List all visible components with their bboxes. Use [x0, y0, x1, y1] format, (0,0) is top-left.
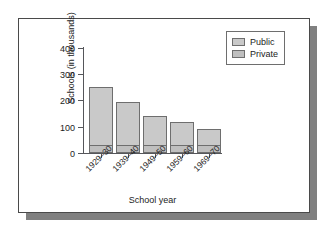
legend-item-public[interactable]: Public [232, 36, 278, 48]
y-tick-0: 0 [78, 153, 83, 154]
bar-group-1939-40[interactable] [116, 48, 140, 153]
bar-group-1969-70[interactable] [197, 48, 221, 153]
bar-group-1959-60[interactable] [170, 48, 194, 153]
y-tick-label-400: 400 [60, 44, 75, 53]
bar-group-1949-50[interactable] [143, 48, 167, 153]
x-axis-title: School year [83, 195, 222, 205]
y-tick-label-300: 300 [60, 70, 75, 79]
legend: Public Private [226, 31, 285, 65]
legend-swatch-private-icon [232, 50, 245, 58]
y-tick-label-200: 200 [60, 96, 75, 105]
legend-swatch-public-icon [232, 38, 245, 46]
figure-root: Schools (in thousands) 0 100 200 300 400 [0, 0, 331, 242]
bar-public-1929-30[interactable] [89, 87, 113, 153]
plot-area [83, 48, 219, 153]
legend-label-public: Public [250, 38, 275, 47]
legend-label-private: Private [250, 50, 278, 59]
y-tick-label-0: 0 [70, 149, 75, 158]
bar-group-1929-30[interactable] [89, 48, 113, 153]
chart-panel: Schools (in thousands) 0 100 200 300 400 [18, 18, 310, 213]
legend-item-private[interactable]: Private [232, 48, 278, 60]
y-tick-label-100: 100 [60, 123, 75, 132]
